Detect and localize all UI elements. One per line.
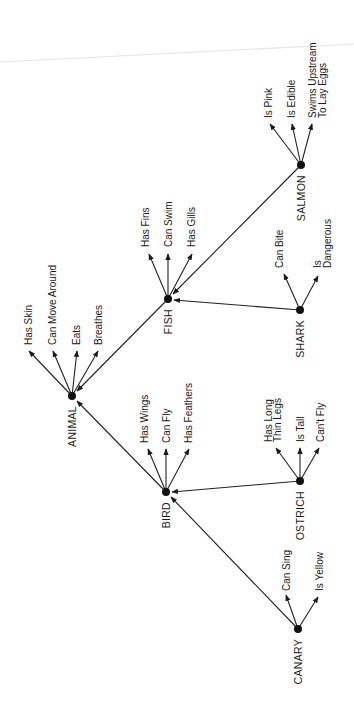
prop-ostrich-is-tall: Is Tall (295, 417, 306, 442)
arrow-ostrich-cant-fly (300, 448, 319, 481)
node-shark (296, 306, 304, 314)
node-salmon (297, 161, 305, 169)
arrow-bird-has-wings (148, 449, 166, 492)
arrow-bird-has-feathers (166, 449, 189, 492)
edge-ostrich-bird (172, 481, 300, 492)
arrow-salmon-swims-upstream (301, 124, 312, 165)
arrow-canary-can-sing (286, 595, 298, 629)
arrow-fish-has-gills (168, 254, 192, 299)
prop-animal-has-skin: Has Skin (23, 305, 34, 345)
prop-fish-has-fins: Has Fins (140, 208, 151, 247)
node-animal (68, 392, 76, 400)
prop-fish-has-gills: Has Gills (186, 207, 197, 247)
prop-fish-can-swim: Can Swim (163, 201, 174, 247)
node-fish (164, 295, 172, 303)
prop-salmon-to-lay-eggs-line2: To Lay Eggs (317, 63, 328, 118)
edge-canary-bird (171, 497, 298, 629)
label-bird: BIRD (160, 502, 172, 528)
arrow-shark-dangerous (300, 276, 318, 310)
label-shark: SHARK (294, 320, 306, 358)
node-ostrich (296, 477, 304, 485)
prop-bird-has-feathers: Has Feathers (183, 383, 194, 443)
property-labels: Has Skin Can Move Around Eats Breathes H… (23, 42, 333, 591)
prop-animal-can-move-around: Can Move Around (47, 265, 58, 345)
edge-fish-animal (77, 299, 168, 391)
label-animal: ANIMAL (66, 406, 78, 447)
arrow-canary-is-yellow (298, 597, 318, 629)
arrow-animal-has-skin (29, 351, 72, 396)
prop-salmon-is-pink: Is Pink (263, 87, 274, 118)
edge-shark-fish (174, 300, 300, 310)
node-bird (162, 488, 170, 496)
label-fish: FISH (162, 309, 174, 334)
prop-bird-can-fly: Can Fly (161, 409, 172, 443)
prop-shark-dangerous-line2: Dangerous (322, 219, 333, 268)
prop-animal-breathes: Breathes (93, 305, 104, 345)
arrow-shark-can-bite (284, 274, 300, 310)
prop-ostrich-has-long-line2: Thin Legs (272, 398, 283, 442)
label-ostrich: OSTRICH (294, 491, 306, 540)
property-arrows (29, 124, 319, 629)
arrow-fish-has-fins (149, 254, 168, 299)
label-canary: CANARY (292, 639, 304, 684)
node-canary (294, 625, 302, 633)
label-salmon: SALMON (295, 175, 307, 221)
prop-animal-eats: Eats (71, 325, 82, 345)
edge-bird-animal (77, 401, 166, 492)
scan-artifact-line (0, 44, 354, 62)
prop-shark-can-bite: Can Bite (274, 229, 285, 268)
prop-canary-is-yellow: Is Yellow (314, 551, 325, 591)
prop-canary-can-sing: Can Sing (281, 550, 292, 591)
prop-salmon-is-edible: Is Edible (286, 79, 297, 118)
arrow-ostrich-long-legs (276, 448, 300, 481)
prop-ostrich-cant-fly: Can't Fly (315, 403, 326, 442)
arrow-animal-can-move (53, 351, 72, 396)
prop-bird-has-wings: Has Wings (139, 395, 150, 443)
semantic-network-diagram: ANIMAL BIRD FISH CANARY OSTRICH SHARK SA… (0, 0, 354, 712)
